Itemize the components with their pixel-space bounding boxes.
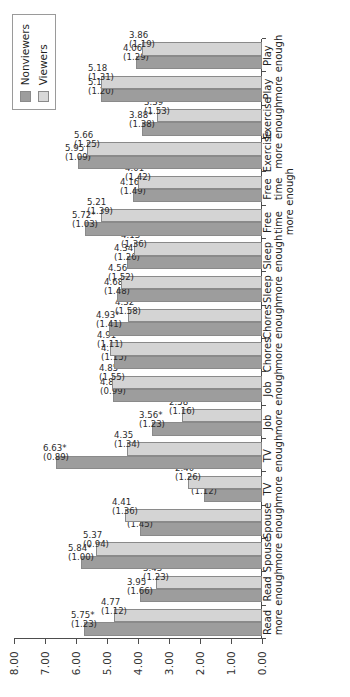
- bar-sd-value: (1.34): [114, 440, 140, 449]
- category-label: Read more: [262, 606, 284, 639]
- category-label: Chores enough: [262, 306, 284, 339]
- bar-nonviewers: 4.34(1.26): [127, 256, 262, 269]
- bar-sd-value: (1.11): [97, 340, 123, 349]
- bar-sd-value: (1.23): [139, 420, 165, 429]
- bar-viewers: 4.35(1.34): [127, 442, 262, 455]
- bar-value-label: 3.86(1.19): [129, 31, 155, 49]
- bar-viewers: 3.86(1.19): [142, 42, 262, 55]
- bar-group: 4.93*(1.41)4.32(1.58): [14, 306, 262, 339]
- legend-label-viewers: Viewers: [37, 44, 49, 85]
- bar-viewers: 4.41(1.36): [125, 509, 262, 522]
- category-label: Play enough: [262, 39, 284, 72]
- bar-sd-value: (1.12): [101, 607, 127, 616]
- bar-group: 4.34(1.26)4.13(1.36): [14, 239, 262, 272]
- category-label: Free time enough: [262, 172, 296, 205]
- bar-nonviewers: 4.16(1.49): [133, 189, 262, 202]
- bar-nonviewers: 3.95(1.45): [140, 522, 262, 535]
- legend-item-nonviewers: Nonviewers: [19, 24, 31, 102]
- bar-sd-value: (1.26): [175, 473, 201, 482]
- bar-chart-figure: 0.001.002.003.004.005.006.007.008.00 5.7…: [0, 0, 350, 697]
- category-label: Spouse enough: [262, 506, 284, 539]
- bar-viewers: 4.91(1.11): [110, 342, 262, 355]
- bar-viewers: 2.40*(1.26): [188, 476, 262, 489]
- bar-nonviewers: 4.76(1.15): [114, 356, 262, 369]
- category-label: Exercise enough: [262, 106, 284, 139]
- bar-group: 3.56*(1.23)2.58(1.16): [14, 406, 262, 439]
- bar-viewers: 3.39(1.53): [157, 109, 262, 122]
- bar-sd-value: (0.94): [83, 540, 109, 549]
- value-axis-tick-label: 4.00: [132, 651, 144, 675]
- bar-group: 5.75*(1.23)4.77(1.12): [14, 606, 262, 639]
- bar-viewers: 4.77(1.12): [114, 609, 262, 622]
- bar-viewers: 5.18(1.31): [101, 76, 262, 89]
- category-label: Free time more: [262, 206, 296, 239]
- bar-viewers: 5.21(1.39): [101, 209, 263, 222]
- value-axis-tick: 0.00: [262, 639, 263, 644]
- bar-nonviewers: 5.75*(1.23): [84, 622, 262, 635]
- value-axis-tick-label: 7.00: [39, 651, 51, 675]
- legend-item-viewers: Viewers: [37, 24, 49, 102]
- bar-group: 3.88*(1.38)3.39(1.53): [14, 106, 262, 139]
- category-label: Play more: [262, 72, 284, 105]
- bar-value-label: 5.75*(1.23): [71, 611, 97, 629]
- bar-sd-value: (0.89): [44, 453, 70, 462]
- bar-nonviewers: 3.56*(1.23): [152, 422, 262, 435]
- category-label: Exercise more: [262, 139, 284, 172]
- bar-sd-value: (1.41): [96, 320, 122, 329]
- bar-value-label: 3.56*(1.23): [139, 411, 165, 429]
- rotated-figure-wrapper: 0.001.002.003.004.005.006.007.008.00 5.7…: [0, 0, 350, 697]
- bar-sd-value: (1.55): [99, 373, 125, 382]
- category-label: Read enough: [262, 572, 284, 605]
- bar-sd-value: (1.38): [129, 120, 155, 129]
- bar-sd-value: (1.52): [108, 273, 134, 282]
- value-axis-tick-label: 5.00: [101, 651, 113, 675]
- category-label: TV more: [262, 472, 284, 505]
- value-axis-tick-label: 2.00: [194, 651, 206, 675]
- value-axis-tick-label: 3.00: [163, 651, 175, 675]
- bar-group: 4.16(1.49)4.01(1.42): [14, 172, 262, 205]
- chart-legend: Nonviewers Viewers: [12, 14, 56, 110]
- value-axis-tick-label: 6.00: [70, 651, 82, 675]
- value-axis-tick: 3.00: [169, 639, 170, 644]
- bar-group: 3.95(1.45)4.41(1.36): [14, 506, 262, 539]
- value-axis-tick-label: 0.00: [256, 651, 268, 675]
- value-axis-tick: 7.00: [45, 639, 46, 644]
- value-axis-tick-label: 1.00: [225, 651, 237, 675]
- bar-group: 6.63*(0.89)4.35(1.34): [14, 439, 262, 472]
- category-label: Sleep enough: [262, 239, 284, 272]
- category-label: Spouse more: [262, 539, 284, 572]
- bar-nonviewers: 4.68(1.48): [117, 289, 262, 302]
- bar-value-label: 6.63*(0.89): [44, 444, 70, 462]
- bar-group: 5.84*(1.00)5.37(0.94): [14, 539, 262, 572]
- category-label: Chores more: [262, 339, 284, 372]
- plot-area: 0.001.002.003.004.005.006.007.008.00 5.7…: [14, 39, 262, 639]
- bar-viewers: 4.13(1.36): [134, 242, 262, 255]
- bar-sd-value: (1.19): [129, 40, 155, 49]
- bar-viewers: 4.56(1.52): [121, 276, 262, 289]
- bar-group: 5.72*(1.03)5.21(1.39): [14, 206, 262, 239]
- bar-nonviewers: 5.95(1.09): [78, 156, 262, 169]
- legend-swatch-nonviewers: [20, 91, 31, 102]
- bar-viewers: 4.01(1.42): [138, 176, 262, 189]
- bar-group: 1.88(1.12)2.40*(1.26): [14, 472, 262, 505]
- category-tick-labels: Read moreRead enoughSpouse moreSpouse en…: [262, 39, 332, 639]
- category-label: TV enough: [262, 439, 284, 472]
- value-axis-tick: 5.00: [107, 639, 108, 644]
- bar-viewers: 4.85(1.55): [112, 376, 262, 389]
- bar-sd-value: (1.58): [115, 307, 141, 316]
- value-axis-tick: 4.00: [138, 639, 139, 644]
- bar-group: 4.68(1.48)4.56(1.52): [14, 272, 262, 305]
- bar-sd-value: (1.23): [71, 620, 97, 629]
- bar-nonviewers: 3.88*(1.38): [142, 122, 262, 135]
- bar-nonviewers: 1.88(1.12): [204, 489, 262, 502]
- bar-sd-value: (1.16): [169, 407, 195, 416]
- bar-nonviewers: 3.95(1.66): [140, 589, 262, 602]
- value-axis-tick: 8.00: [14, 639, 15, 644]
- bar-nonviewers: 4.93*(1.41): [109, 322, 262, 335]
- bar-viewers: 4.32(1.58): [128, 309, 262, 322]
- bar-group: 4.80(0.99)4.85(1.55): [14, 372, 262, 405]
- bar-sd-value: (1.23): [143, 573, 169, 582]
- bar-nonviewers: 5.72*(1.03): [85, 222, 262, 235]
- category-label: Job more: [262, 406, 284, 439]
- bar-group: 3.95(1.66)3.43(1.23): [14, 572, 262, 605]
